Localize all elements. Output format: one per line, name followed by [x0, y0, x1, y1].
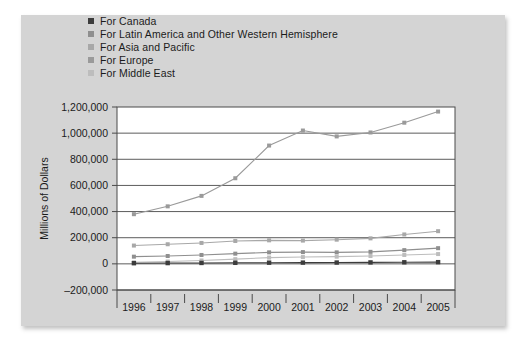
series-marker	[369, 250, 373, 254]
series-marker	[267, 250, 271, 254]
chart-svg: –200,0000200,000400,000600,000800,0001,0…	[0, 0, 525, 341]
series-marker	[301, 250, 305, 254]
series-marker	[402, 121, 406, 125]
x-axis-tick-label: 2001	[291, 301, 315, 313]
x-axis-tick-label: 1996	[122, 301, 146, 313]
y-axis-title: Millions of Dollars	[38, 157, 50, 239]
series-marker	[369, 130, 373, 134]
series-marker	[402, 248, 406, 252]
series-marker	[436, 260, 440, 264]
series-marker	[233, 176, 237, 180]
series-marker	[233, 257, 237, 261]
chart-plot-area: –200,0000200,000400,000600,000800,0001,0…	[0, 0, 525, 341]
y-axis-tick-label: 400,000	[70, 205, 108, 217]
x-axis-tick-label: 2004	[393, 301, 417, 313]
series-marker	[200, 194, 204, 198]
series-marker	[436, 110, 440, 114]
series-marker	[402, 253, 406, 257]
y-axis-tick-label: 0	[102, 257, 108, 269]
series-marker	[402, 232, 406, 236]
y-axis-tick-label: 1,000,000	[61, 127, 108, 139]
series-marker	[369, 254, 373, 258]
series-marker	[132, 244, 136, 248]
series-marker	[301, 239, 305, 243]
series-marker	[267, 238, 271, 242]
series-marker	[335, 134, 339, 138]
series-marker	[200, 241, 204, 245]
series-marker	[132, 261, 136, 265]
series-marker	[369, 236, 373, 240]
series-marker	[436, 246, 440, 250]
x-axis-tick-label: 2005	[426, 301, 450, 313]
y-axis-tick-label: 1,200,000	[61, 101, 108, 113]
x-axis-tick-label: 2000	[257, 301, 281, 313]
series-marker	[166, 261, 170, 265]
series-marker	[200, 253, 204, 257]
series-marker	[132, 212, 136, 216]
series-marker	[436, 229, 440, 233]
series-marker	[335, 238, 339, 242]
y-axis-tick-label: 200,000	[70, 231, 108, 243]
series-marker	[335, 260, 339, 264]
y-axis-tick-label: 600,000	[70, 179, 108, 191]
y-axis-tick-label: –200,000	[64, 284, 108, 296]
x-axis-tick-label: 1998	[190, 301, 214, 313]
series-marker	[233, 252, 237, 256]
series-marker	[199, 261, 203, 265]
series-marker	[267, 256, 271, 260]
series-marker	[436, 252, 440, 256]
chart-figure: For CanadaFor Latin America and Other We…	[0, 0, 525, 341]
series-marker	[267, 144, 271, 148]
x-axis-tick-label: 2003	[359, 301, 383, 313]
series-marker	[335, 255, 339, 259]
series-marker	[233, 239, 237, 243]
series-marker	[132, 255, 136, 259]
x-axis-tick-label: 1997	[156, 301, 180, 313]
series-marker	[402, 260, 406, 264]
series-marker	[267, 260, 271, 264]
x-axis-tick-label: 1999	[224, 301, 248, 313]
series-marker	[233, 261, 237, 265]
y-axis-tick-label: 800,000	[70, 153, 108, 165]
series-marker	[301, 255, 305, 259]
x-axis-tick-label: 2002	[325, 301, 349, 313]
series-marker	[166, 254, 170, 258]
series-marker	[368, 260, 372, 264]
series-marker	[166, 204, 170, 208]
series-marker	[166, 242, 170, 246]
series-marker	[335, 250, 339, 254]
series-marker	[301, 129, 305, 133]
series-marker	[301, 260, 305, 264]
